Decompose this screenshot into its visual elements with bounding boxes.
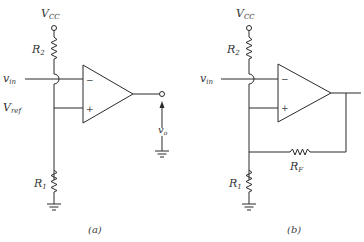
resistor-rf-b bbox=[290, 149, 310, 155]
vcc-label-a: VCC bbox=[41, 7, 60, 21]
resistor-r2-a bbox=[51, 37, 57, 59]
vcc-terminal-a bbox=[52, 26, 57, 31]
r2-label-b: R2 bbox=[226, 43, 240, 57]
ground-icon bbox=[242, 204, 256, 210]
vref-label-a: Vref bbox=[3, 101, 22, 115]
r1-label-a: R1 bbox=[33, 177, 47, 191]
panel-a: VCC R2 vin Vref − + vo bbox=[3, 7, 169, 235]
op-amp-b bbox=[278, 64, 331, 122]
vcc-terminal-b bbox=[247, 26, 252, 31]
plus-sign-a: + bbox=[86, 104, 94, 114]
op-amp-a bbox=[83, 65, 133, 123]
ground-icon bbox=[155, 151, 169, 157]
plus-sign-b: + bbox=[281, 103, 289, 113]
minus-sign-a: − bbox=[86, 75, 94, 85]
vcc-label-b: VCC bbox=[236, 7, 255, 21]
caption-a: (a) bbox=[88, 224, 102, 235]
caption-b: (b) bbox=[287, 224, 301, 235]
circuit-diagram: VCC R2 vin Vref − + vo bbox=[0, 0, 364, 242]
vin-label-a: vin bbox=[3, 72, 16, 86]
arrow-up-icon bbox=[160, 101, 165, 108]
output-terminal-a bbox=[160, 92, 165, 97]
r2-label-a: R2 bbox=[31, 43, 45, 57]
panel-b: VCC R2 vin − + RF R1 (b) bbox=[200, 7, 361, 235]
vin-label-b: vin bbox=[200, 72, 213, 86]
resistor-r2-b bbox=[246, 37, 252, 59]
rf-label-b: RF bbox=[289, 160, 304, 174]
ground-icon bbox=[47, 204, 61, 210]
vo-label-a: vo bbox=[158, 124, 168, 136]
r1-label-b: R1 bbox=[228, 177, 242, 191]
minus-sign-b: − bbox=[281, 74, 289, 84]
